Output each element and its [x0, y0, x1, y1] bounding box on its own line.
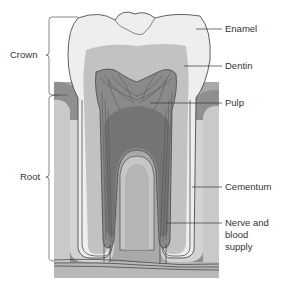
label-dentin: Dentin: [225, 60, 252, 72]
interradicular-core: [125, 164, 149, 250]
label-nerve-line1: Nerve and: [225, 217, 269, 229]
label-cementum: Cementum: [225, 181, 271, 193]
label-crown: Crown: [10, 49, 37, 61]
label-nerve-line2: blood: [225, 229, 269, 241]
label-nerve-line3: supply: [225, 241, 269, 253]
label-pulp: Pulp: [225, 97, 244, 109]
left-bone-inner: [54, 100, 70, 262]
label-enamel: Enamel: [225, 23, 257, 35]
right-bone-inner: [203, 106, 219, 262]
label-root: Root: [20, 171, 40, 183]
label-nerve-blood-supply: Nerve and blood supply: [225, 217, 269, 253]
